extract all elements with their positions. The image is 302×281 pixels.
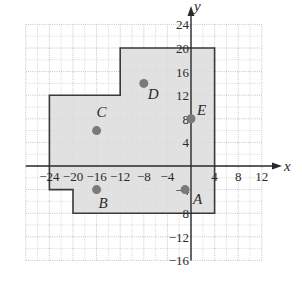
y-tick-label: −12 bbox=[169, 230, 189, 245]
y-tick-label: 20 bbox=[176, 41, 189, 56]
point-label-a: A bbox=[192, 191, 203, 207]
x-tick-label: 8 bbox=[235, 169, 242, 184]
point-label-b: B bbox=[99, 195, 108, 211]
x-tick-label: 4 bbox=[211, 169, 218, 184]
y-tick-label: −16 bbox=[169, 253, 190, 268]
x-axis-label: x bbox=[283, 158, 291, 174]
x-tick-label: −16 bbox=[86, 169, 107, 184]
y-tick-label: 12 bbox=[176, 88, 189, 103]
y-axis-label: y bbox=[192, 0, 201, 14]
x-tick-label: −12 bbox=[110, 169, 130, 184]
point-b bbox=[92, 185, 101, 194]
y-tick-label: −8 bbox=[175, 206, 189, 221]
point-label-c: C bbox=[97, 104, 108, 120]
point-a bbox=[181, 185, 190, 194]
point-label-d: D bbox=[147, 86, 159, 102]
x-tick-label: 12 bbox=[255, 169, 268, 184]
y-tick-label: 4 bbox=[183, 135, 190, 150]
x-tick-label: −20 bbox=[63, 169, 83, 184]
coordinate-plane: −24−20−16−12−8−448122420161284−4−8−12−16… bbox=[0, 0, 302, 281]
x-tick-label: −24 bbox=[39, 169, 60, 184]
x-axis-arrow-icon bbox=[272, 163, 282, 170]
y-tick-label: 16 bbox=[176, 65, 190, 80]
x-tick-label: −4 bbox=[160, 169, 174, 184]
shaded-region bbox=[49, 48, 214, 213]
y-tick-label: 24 bbox=[176, 17, 190, 32]
point-e bbox=[187, 114, 196, 123]
point-c bbox=[92, 126, 101, 135]
x-tick-label: −8 bbox=[137, 169, 151, 184]
point-label-e: E bbox=[196, 102, 206, 118]
